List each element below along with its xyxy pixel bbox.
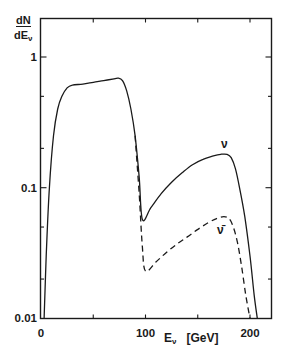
x-axis-label-nu-subscript: ν: [172, 337, 176, 346]
chart-plot-area: 01002000.010.11: [0, 0, 284, 362]
y-tick-label: 0.1: [21, 182, 38, 194]
plot-frame: [41, 19, 272, 319]
y-tick-label: 0.01: [15, 312, 38, 324]
y-axis-label-nu-subscript: ν: [28, 34, 32, 43]
x-tick-label: 0: [38, 327, 44, 339]
series-label-nu: ν: [221, 137, 228, 151]
x-axis-label-E: E: [164, 331, 172, 345]
x-tick-label: 200: [240, 327, 259, 339]
series-nu-line: [44, 78, 257, 318]
x-axis-unit: [GeV]: [186, 331, 218, 345]
y-axis-label-denominator: dEν: [14, 29, 33, 45]
y-axis-label-numerator: dN: [16, 14, 31, 27]
y-axis-label-dE: dE: [14, 29, 28, 41]
series-label-nubar: ν̄: [217, 223, 224, 237]
x-axis-label: Eν[GeV]: [164, 331, 218, 346]
x-tick-label: 100: [136, 327, 155, 339]
y-tick-label: 1: [31, 51, 38, 63]
series-nubar-line: [135, 136, 250, 319]
